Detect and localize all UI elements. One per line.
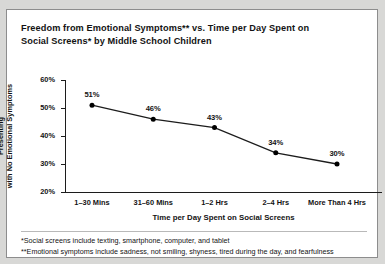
data-point-label: 34%: [268, 138, 283, 147]
chart-title-line-2: Social Screens* by Middle School Childre…: [21, 36, 212, 46]
chart-figure: Freedom from Emotional Symptoms** vs. Ti…: [6, 9, 378, 258]
data-point-marker: [90, 103, 95, 108]
y-axis-tick-label: 40%: [40, 131, 55, 140]
data-point-marker: [273, 150, 278, 155]
x-axis-tick-label: 31–60 Mins: [134, 198, 173, 207]
data-point-label: 30%: [329, 149, 344, 158]
line-series: [65, 80, 382, 193]
y-axis-title-line-2: with No Emotional Symptoms: [5, 84, 14, 188]
chart-title-line-1: Freedom from Emotional Symptoms** vs. Ti…: [21, 23, 309, 33]
x-axis-title: Time per Day Spent on Social Screens: [65, 213, 382, 222]
y-axis-tick-label: 50%: [40, 103, 55, 112]
x-axis-tick-label: 2–4 Hrs: [262, 198, 289, 207]
footnotes: *Social screens include texting, smartph…: [21, 236, 371, 257]
y-axis-tick-label: 20%: [40, 187, 55, 196]
data-point-marker: [212, 125, 217, 130]
plot-area: Percentage of Children Presenting with N…: [65, 80, 382, 192]
y-axis-title: Percentage of Children Presenting with N…: [0, 77, 14, 195]
data-point-label: 43%: [207, 113, 222, 122]
chart-title: Freedom from Emotional Symptoms** vs. Ti…: [21, 22, 361, 47]
y-axis-tick-label: 60%: [40, 75, 55, 84]
footnote-divider: [21, 231, 367, 232]
data-point-marker: [335, 162, 340, 167]
y-axis-tick-label: 30%: [40, 159, 55, 168]
x-axis-tick-label: 1–30 Mins: [74, 198, 109, 207]
data-point-label: 51%: [84, 90, 99, 99]
x-axis-tick-label: More Than 4 Hrs: [308, 198, 366, 207]
footnote: **Emotional symptoms include sadness, no…: [21, 247, 371, 258]
footnote: *Social screens include texting, smartph…: [21, 236, 371, 247]
x-axis-tick-label: 1–2 Hrs: [201, 198, 228, 207]
data-point-marker: [151, 117, 156, 122]
data-point-label: 46%: [146, 104, 161, 113]
